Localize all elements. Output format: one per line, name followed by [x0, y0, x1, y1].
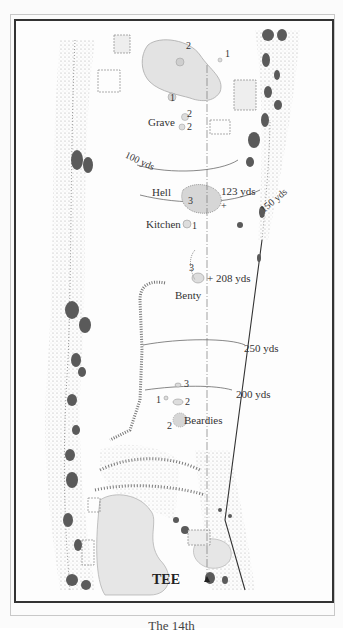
tee-label: TEE: [152, 572, 180, 588]
yardage-208: + 208 yds: [207, 272, 250, 284]
bunker-number: 3: [184, 378, 189, 389]
svg-text:+: +: [221, 200, 227, 211]
yardage-123: 123 yds: [221, 185, 256, 197]
bunker-number: 2: [167, 420, 172, 431]
green: [142, 40, 221, 101]
bunker-label-hell: Hell: [152, 186, 171, 198]
yardage-250: 250 yds: [244, 342, 279, 354]
green-marker-1: 1: [225, 48, 230, 59]
bunker-label-beardies: Beardies: [184, 414, 222, 426]
green-marker-2: 2: [186, 40, 191, 51]
bunker-number: 2: [185, 396, 190, 407]
bunker-number: 1: [156, 394, 161, 405]
bunker-label-kitchen: Kitchen: [146, 218, 181, 230]
green-marker-1b: 1: [170, 92, 175, 103]
bunker-number: 1: [192, 220, 197, 231]
yardage-200: 200 yds: [236, 388, 271, 400]
hole-caption: The 14th: [0, 618, 343, 634]
bunker-number: 3: [188, 195, 193, 206]
bunker-number: 3: [189, 262, 194, 273]
bunker-number: 2: [187, 121, 192, 132]
bunker-label-benty: Benty: [175, 289, 201, 301]
bunker-label-grave: Grave: [148, 116, 175, 128]
bunker-number: 2: [187, 108, 192, 119]
